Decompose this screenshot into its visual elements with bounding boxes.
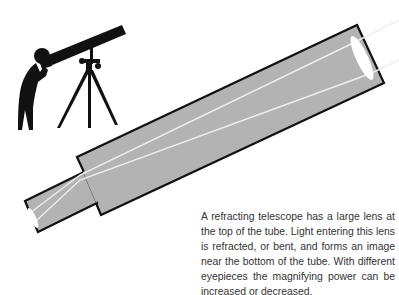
person-body: [18, 63, 48, 130]
person-head: [34, 48, 50, 64]
observer-illustration: [18, 25, 126, 130]
main-tube: [77, 25, 384, 215]
figure-caption: A refracting telescope has a large lens …: [201, 209, 395, 295]
